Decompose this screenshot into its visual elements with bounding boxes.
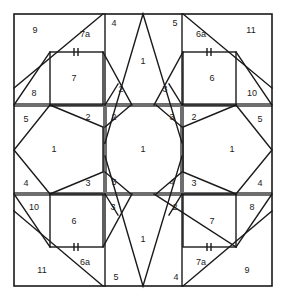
label-mr-1: 1 bbox=[229, 144, 234, 154]
label-tr-10: 10 bbox=[247, 88, 257, 98]
label-bc-5: 5 bbox=[113, 272, 118, 282]
label-c-5: 5 bbox=[111, 177, 116, 187]
quilt-block-diagram: 9 7a 8 7 2 4 5 1 3 6a 11 6 10 5 2 1 4 3 … bbox=[0, 0, 286, 300]
label-tl-9: 9 bbox=[32, 25, 37, 35]
label-bl-6a: 6a bbox=[80, 257, 90, 267]
label-tc-3: 3 bbox=[162, 84, 167, 94]
label-bc-2: 2 bbox=[172, 202, 177, 212]
label-br-7: 7 bbox=[209, 216, 214, 226]
label-c-1: 1 bbox=[140, 144, 145, 154]
label-ml-1: 1 bbox=[51, 144, 56, 154]
label-br-7a: 7a bbox=[196, 257, 206, 267]
quilt-block-svg: 9 7a 8 7 2 4 5 1 3 6a 11 6 10 5 2 1 4 3 … bbox=[0, 0, 286, 300]
label-tr-6a: 6a bbox=[196, 29, 206, 39]
label-tr-6: 6 bbox=[209, 73, 214, 83]
label-c-2: 2 bbox=[111, 112, 116, 122]
label-tl-7a: 7a bbox=[80, 29, 90, 39]
label-bl-6: 6 bbox=[71, 216, 76, 226]
label-tl-7: 7 bbox=[71, 73, 76, 83]
label-c-4: 4 bbox=[169, 177, 174, 187]
label-tc-1: 1 bbox=[140, 56, 145, 66]
label-tl-8: 8 bbox=[31, 88, 36, 98]
label-tc-5: 5 bbox=[172, 18, 177, 28]
label-mr-2: 2 bbox=[191, 112, 196, 122]
label-mr-4: 4 bbox=[257, 178, 262, 188]
label-mr-5: 5 bbox=[257, 114, 262, 124]
label-br-8: 8 bbox=[249, 202, 254, 212]
label-ml-5: 5 bbox=[23, 114, 28, 124]
label-ml-2: 2 bbox=[85, 112, 90, 122]
label-tl-2: 2 bbox=[118, 84, 123, 94]
label-bc-1: 1 bbox=[140, 234, 145, 244]
label-br-9: 9 bbox=[244, 265, 249, 275]
label-c-3: 3 bbox=[169, 112, 174, 122]
label-bc-4: 4 bbox=[173, 272, 178, 282]
label-ml-4: 4 bbox=[23, 178, 28, 188]
label-bl-11: 11 bbox=[37, 265, 46, 275]
label-tc-4: 4 bbox=[111, 18, 116, 28]
label-mr-3: 3 bbox=[191, 178, 196, 188]
label-ml-3: 3 bbox=[85, 178, 90, 188]
label-bl-10: 10 bbox=[29, 202, 39, 212]
label-tr-11: 11 bbox=[246, 25, 255, 35]
